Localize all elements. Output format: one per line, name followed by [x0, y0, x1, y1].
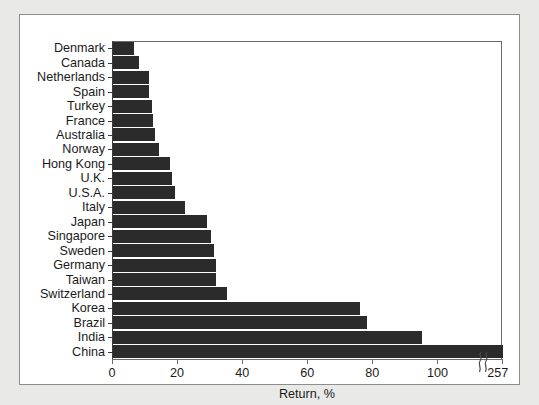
- bar-spain: [113, 85, 149, 98]
- y-axis-tick: [108, 77, 112, 78]
- bar-japan: [113, 215, 207, 228]
- category-label-brazil: Brazil: [74, 317, 106, 330]
- category-label-denmark: Denmark: [54, 42, 105, 55]
- bar-germany: [113, 259, 216, 272]
- y-axis-tick: [108, 265, 112, 266]
- x-axis-tick-label: 257: [487, 367, 508, 380]
- y-axis-tick: [108, 294, 112, 295]
- x-axis-tick-label: 60: [300, 367, 314, 380]
- y-axis-tick: [108, 164, 112, 165]
- bar-france: [113, 114, 153, 127]
- x-axis-tick-label: 100: [427, 367, 448, 380]
- bar-sweden: [113, 244, 214, 257]
- category-label-taiwan: Taiwan: [66, 273, 105, 286]
- bar-australia: [113, 128, 155, 141]
- bar-china: [113, 345, 503, 358]
- x-axis-tick-label: 20: [170, 367, 184, 380]
- y-axis-tick: [108, 251, 112, 252]
- category-label-hong-kong: Hong Kong: [42, 158, 105, 171]
- x-axis-tick: [242, 359, 243, 364]
- x-axis-tick-label: 0: [108, 367, 115, 380]
- bar-taiwan: [113, 273, 216, 286]
- bar-row: U.K.: [112, 172, 502, 185]
- category-label-canada: Canada: [61, 56, 105, 69]
- bar-row: Turkey: [112, 100, 502, 113]
- y-axis-tick: [108, 236, 112, 237]
- category-label-italy: Italy: [82, 201, 105, 214]
- bar-row: France: [112, 114, 502, 127]
- bar-denmark: [113, 42, 134, 55]
- bar-korea: [113, 302, 360, 315]
- y-axis-tick: [108, 121, 112, 122]
- bar-row: Denmark: [112, 42, 502, 55]
- x-axis-tick-label: 80: [365, 367, 379, 380]
- y-axis-tick: [108, 178, 112, 179]
- y-axis-tick: [108, 323, 112, 324]
- category-label-china: China: [72, 345, 105, 358]
- y-axis-tick: [108, 280, 112, 281]
- bar-brazil: [113, 316, 367, 329]
- x-axis-tick: [177, 359, 178, 364]
- category-label-germany: Germany: [53, 259, 105, 272]
- bar-row: Sweden: [112, 244, 502, 257]
- bar-row: Brazil: [112, 316, 502, 329]
- bar-row: U.S.A.: [112, 186, 502, 199]
- y-axis-tick: [108, 193, 112, 194]
- bar-row: Netherlands: [112, 71, 502, 84]
- category-label-u-s-a: U.S.A.: [69, 186, 105, 199]
- bar-u-s-a: [113, 186, 175, 199]
- bar-hong-kong: [113, 157, 170, 170]
- figure-panel: DenmarkCanadaNetherlandsSpainTurkeyFranc…: [19, 14, 520, 385]
- bar-row: China: [112, 345, 502, 358]
- y-axis-tick: [108, 207, 112, 208]
- y-axis-tick: [108, 149, 112, 150]
- bar-row: Taiwan: [112, 273, 502, 286]
- category-label-u-k: U.K.: [81, 172, 106, 185]
- bar-row: Australia: [112, 128, 502, 141]
- category-label-korea: Korea: [71, 302, 105, 315]
- y-axis-tick: [108, 135, 112, 136]
- figure-root: DenmarkCanadaNetherlandsSpainTurkeyFranc…: [0, 0, 539, 405]
- bar-singapore: [113, 230, 211, 243]
- bar-row: Korea: [112, 302, 502, 315]
- bar-netherlands: [113, 71, 149, 84]
- y-axis-tick: [108, 48, 112, 49]
- category-label-india: India: [78, 331, 105, 344]
- y-axis-tick: [108, 352, 112, 353]
- bar-row: Japan: [112, 215, 502, 228]
- category-label-japan: Japan: [71, 215, 105, 228]
- y-axis-tick: [108, 92, 112, 93]
- bar-canada: [113, 56, 139, 69]
- category-label-norway: Norway: [62, 143, 105, 156]
- bar-row: Italy: [112, 201, 502, 214]
- bar-row: Singapore: [112, 230, 502, 243]
- category-label-netherlands: Netherlands: [37, 71, 105, 84]
- x-axis-tick-label: 40: [235, 367, 249, 380]
- bar-india: [113, 331, 422, 344]
- x-axis-tick: [372, 359, 373, 364]
- bar-norway: [113, 143, 159, 156]
- category-label-spain: Spain: [73, 85, 105, 98]
- bar-italy: [113, 201, 185, 214]
- y-axis-tick: [108, 106, 112, 107]
- x-axis-tick: [437, 359, 438, 364]
- y-axis-tick: [108, 337, 112, 338]
- y-axis-tick: [108, 308, 112, 309]
- bar-chart-plot-area: DenmarkCanadaNetherlandsSpainTurkeyFranc…: [112, 41, 502, 359]
- category-label-singapore: Singapore: [48, 230, 105, 243]
- bar-turkey: [113, 100, 152, 113]
- bar-row: Norway: [112, 143, 502, 156]
- bar-row: Canada: [112, 56, 502, 69]
- y-axis-tick: [108, 222, 112, 223]
- bar-u-k: [113, 172, 172, 185]
- y-axis-tick: [108, 63, 112, 64]
- bar-switzerland: [113, 287, 227, 300]
- bar-row: Spain: [112, 85, 502, 98]
- bar-row: Hong Kong: [112, 157, 502, 170]
- bar-row: India: [112, 331, 502, 344]
- bar-row: Switzerland: [112, 287, 502, 300]
- bar-row: Germany: [112, 259, 502, 272]
- x-axis-tick: [307, 359, 308, 364]
- category-label-australia: Australia: [56, 129, 105, 142]
- category-label-turkey: Turkey: [67, 100, 105, 113]
